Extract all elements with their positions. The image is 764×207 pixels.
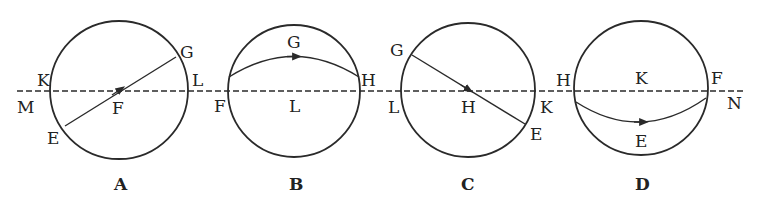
label-b-g: G	[287, 32, 301, 52]
label-b-h: H	[361, 70, 376, 90]
label-c-h: H	[461, 97, 476, 117]
label-c-k: K	[540, 97, 553, 117]
label-a-g: G	[180, 42, 194, 62]
label-a-f: F	[112, 98, 124, 118]
caption-c: C	[461, 174, 475, 194]
label-c-g: G	[390, 40, 404, 60]
label-c-e: E	[530, 124, 542, 144]
label-h-between: H	[556, 70, 571, 90]
arrow-c-icon	[461, 85, 469, 90]
label-b-f: F	[214, 96, 226, 116]
panel-d: K F E N D	[574, 21, 742, 194]
label-a-k: K	[37, 70, 50, 90]
caption-d: D	[635, 174, 650, 194]
label-m: M	[17, 97, 34, 117]
arc-b	[229, 57, 359, 78]
label-c-l: L	[388, 97, 399, 117]
caption-b: B	[289, 174, 303, 194]
label-a-e: E	[47, 128, 59, 148]
panel-a: G K L F E M A	[17, 21, 203, 194]
label-d-f: F	[711, 68, 723, 88]
panel-b: G F H L B	[214, 25, 376, 194]
label-d-k: K	[635, 68, 648, 88]
label-a-l: L	[192, 70, 203, 90]
caption-a: A	[113, 174, 128, 194]
celestial-circles-diagram: G K L F E M A G F H L B G L K H E H C K …	[0, 0, 764, 207]
arc-d	[576, 98, 706, 122]
label-b-l: L	[289, 96, 300, 116]
label-n: N	[727, 93, 742, 113]
panel-c: G L K H E H C	[388, 23, 571, 194]
label-d-e: E	[635, 131, 647, 151]
